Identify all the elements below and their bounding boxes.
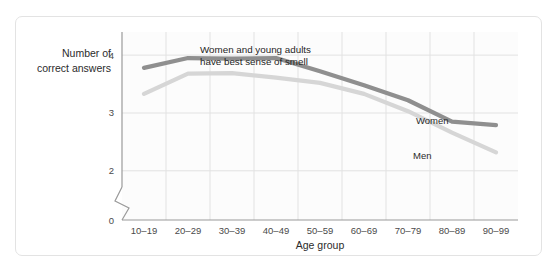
x-tick-7: 80–89 <box>439 225 465 236</box>
x-tick-6: 70–79 <box>395 225 421 236</box>
x-tick-0: 10–19 <box>131 225 157 236</box>
x-tick-5: 60–69 <box>351 225 377 236</box>
x-tick-3: 40–49 <box>263 225 289 236</box>
y-tick-3: 3 <box>109 107 114 118</box>
y-axis-title-line1: Number of <box>62 47 111 59</box>
y-axis-tick-labels: 0234 <box>109 50 114 226</box>
x-tick-8: 90–99 <box>483 225 509 236</box>
y-axis-title-line2: correct answers <box>37 62 111 74</box>
y-tick-0: 0 <box>109 215 114 226</box>
series-label-men: Men <box>413 150 431 161</box>
x-tick-4: 50–59 <box>307 225 333 236</box>
x-tick-1: 20–29 <box>175 225 201 236</box>
x-axis-title: Age group <box>296 239 345 251</box>
headline-annotation-line2: have best sense of smell <box>200 56 308 67</box>
smell-test-line-chart: 0234 10–1920–2930–3940–4950–5960–6970–79… <box>16 17 543 257</box>
y-tick-2: 2 <box>109 165 114 176</box>
figure-card: 0234 10–1920–2930–3940–4950–5960–6970–79… <box>15 16 542 256</box>
headline-annotation-line1: Women and young adults <box>200 44 311 55</box>
x-axis-tick-labels: 10–1920–2930–3940–4950–5960–6970–7980–89… <box>131 225 509 236</box>
x-tick-2: 30–39 <box>219 225 245 236</box>
series-label-women: Women <box>416 115 449 126</box>
